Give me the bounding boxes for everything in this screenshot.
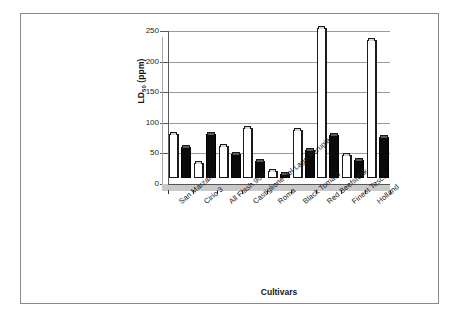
bar-black[interactable] — [354, 160, 364, 178]
bar-white[interactable] — [293, 130, 303, 178]
gridline-200 — [168, 62, 390, 63]
bar-black[interactable] — [305, 150, 315, 178]
bar-top-cap — [330, 133, 338, 136]
bar-black[interactable] — [206, 134, 216, 178]
y-tick-label-0: 0 — [155, 180, 159, 188]
bar-black[interactable] — [255, 161, 265, 178]
bar-top-cap — [294, 128, 301, 131]
bar-top-cap — [281, 172, 289, 175]
bar-white[interactable] — [243, 128, 253, 178]
bar-top-cap — [232, 152, 240, 155]
x-axis-title: Cultivars — [168, 287, 390, 297]
gridline-50 — [168, 153, 390, 154]
bar-white[interactable] — [219, 146, 229, 178]
y-tick-label-200: 200 — [146, 58, 159, 66]
bar-white[interactable] — [194, 163, 204, 178]
bar-black[interactable] — [379, 137, 389, 178]
x-tick-mark — [217, 190, 218, 194]
bar-black[interactable] — [280, 174, 290, 178]
x-tick-mark — [193, 190, 194, 194]
bar-black[interactable] — [329, 135, 339, 178]
y-tick-label-250: 250 — [146, 27, 159, 35]
bar-top-cap — [368, 38, 375, 41]
bar-top-cap — [306, 148, 314, 151]
y-tick-label-100: 100 — [146, 119, 159, 127]
x-tick-mark — [341, 190, 342, 194]
x-tick-mark — [316, 190, 317, 194]
x-tick-mark — [390, 190, 391, 194]
bar-top-cap — [195, 161, 202, 164]
x-tick-mark — [291, 190, 292, 194]
bar-black[interactable] — [231, 154, 241, 178]
bar-top-cap — [182, 145, 190, 148]
y-tick-label-50: 50 — [150, 149, 159, 157]
gridline-150 — [168, 92, 390, 93]
bar-white[interactable] — [317, 28, 327, 178]
bar-top-cap — [318, 26, 325, 29]
bar-white[interactable] — [268, 171, 278, 178]
bar-top-cap — [256, 159, 264, 162]
bar-top-cap — [343, 153, 350, 156]
bar-top-cap — [355, 158, 363, 161]
bar-top-cap — [244, 126, 251, 129]
plot-back-wall-edge — [162, 37, 163, 190]
x-tick-mark — [242, 190, 243, 194]
y-tick-mark-250 — [160, 31, 168, 32]
x-axis-ticks — [168, 190, 390, 195]
bar-top-cap — [220, 144, 227, 147]
bar-top-cap — [170, 132, 177, 135]
bar-white[interactable] — [342, 155, 352, 178]
bar-top-cap — [380, 135, 388, 138]
y-tick-label-150: 150 — [146, 88, 159, 96]
x-tick-mark — [168, 190, 169, 194]
bar-top-cap — [269, 169, 276, 172]
y-axis-ticks: 050100150200250 — [128, 31, 159, 184]
gridline-100 — [168, 123, 390, 124]
x-tick-mark — [365, 190, 366, 194]
bar-top-cap — [207, 132, 215, 135]
gridline-250 — [168, 31, 390, 32]
bar-black[interactable] — [181, 147, 191, 178]
bar-white[interactable] — [367, 40, 377, 178]
x-tick-mark — [267, 190, 268, 194]
plot-area — [168, 31, 390, 184]
bar-white[interactable] — [169, 134, 179, 178]
